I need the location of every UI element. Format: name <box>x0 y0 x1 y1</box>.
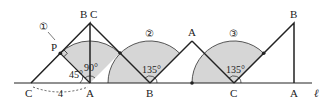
rolling-triangle-diagram: B C ① P 45° 90° C 4 A ② A 135° B ③ B 135… <box>0 0 328 100</box>
label-b-base: B <box>146 87 153 99</box>
label-bc-top: B C <box>80 8 97 20</box>
label-1-leader <box>48 32 55 40</box>
dot-at-base-a <box>190 81 194 85</box>
label-p: P <box>51 41 57 53</box>
angle-label-135-c: 135° <box>226 64 245 75</box>
angle-label-45: 45° <box>69 69 83 80</box>
label-b-top: B <box>290 8 297 20</box>
sector-2-label: ② <box>145 28 154 39</box>
angle-label-135-b: 135° <box>142 64 161 75</box>
sector-3-label: ③ <box>229 28 238 39</box>
sector-1-label: ① <box>39 21 48 32</box>
dot-on-side-3 <box>262 52 266 56</box>
label-c-base: C <box>230 87 237 99</box>
label-c-left: C <box>25 87 32 99</box>
label-a-base-right: A <box>290 87 298 99</box>
label-a-top: A <box>188 26 196 38</box>
line-l-label: ℓ <box>314 87 319 99</box>
label-a-1: A <box>86 87 94 99</box>
angle-label-90: 90° <box>84 62 98 73</box>
point-p-dot <box>59 52 63 56</box>
intersection-dot-1 <box>118 51 122 55</box>
distance-label-4: 4 <box>58 88 63 99</box>
